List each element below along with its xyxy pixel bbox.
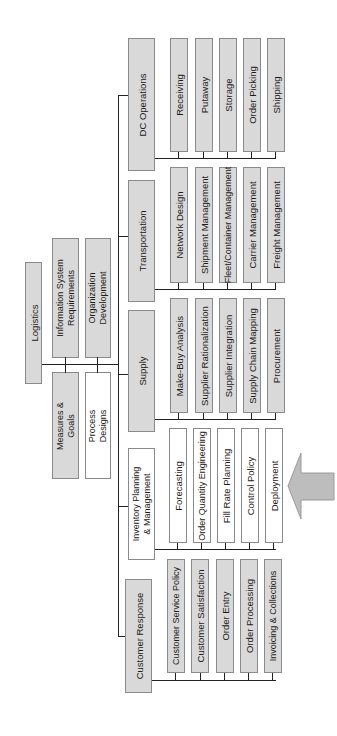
- stub: [175, 673, 176, 680]
- leaf-label: Receiving: [174, 74, 185, 116]
- leaf-fleet-container-management: Fleet/Container Management: [219, 167, 237, 283]
- process-designs-label: Process Designs: [87, 409, 109, 442]
- category-label: DC Operations: [136, 73, 147, 136]
- leaf-label: Freight Management: [271, 181, 282, 269]
- stub: [275, 283, 276, 289]
- leaf-order-entry: Order Entry: [216, 559, 234, 673]
- stub: [225, 543, 226, 549]
- leaf-label: Fleet/Container Management: [223, 167, 234, 284]
- stub: [203, 152, 204, 158]
- category-dc-operations: DC Operations: [128, 38, 155, 171]
- leaf-label: Make-Buy Analysis: [174, 315, 185, 395]
- stub: [178, 283, 179, 289]
- stub: [251, 283, 252, 289]
- leaf-label: Shipment Management: [199, 176, 210, 274]
- stub: [251, 413, 252, 419]
- stub: [275, 152, 276, 158]
- highlight-arrow-icon: [286, 451, 336, 521]
- leaf-control-policy: Control Policy: [241, 428, 259, 543]
- bus-supply: [155, 419, 276, 420]
- leaf-procurement: Procurement: [267, 298, 285, 413]
- stub: [224, 673, 225, 680]
- stub: [203, 413, 204, 419]
- leaf-fill-rate-planning: Fill Rate Planning: [217, 428, 235, 543]
- leaf-shipping: Shipping: [267, 38, 285, 152]
- main-spine: [118, 95, 119, 636]
- leaf-order-quantity-engineering: Order Quantity Engineering: [193, 428, 211, 543]
- leaf-deployment: Deployment: [265, 428, 283, 543]
- stub: [178, 413, 179, 419]
- leaf-forecasting: Forecasting: [169, 428, 187, 543]
- leaf-label: Order Quantity Engineering: [197, 431, 208, 541]
- leaf-label: Control Policy: [245, 456, 256, 515]
- leaf-label: Carrier Management: [247, 181, 258, 268]
- information-system-requirements-box: Information System Requirements: [52, 238, 79, 358]
- stub: [273, 543, 274, 549]
- leaf-freight-management: Freight Management: [267, 167, 285, 283]
- leaf-shipment-management: Shipment Management: [195, 167, 213, 283]
- leaf-network-design: Network Design: [170, 167, 188, 283]
- information-system-requirements-label: Information System Requirements: [55, 259, 77, 337]
- leaf-label: Customer Service Policy: [171, 567, 182, 665]
- stub: [178, 152, 179, 158]
- bus-dc: [155, 158, 276, 159]
- stub: [227, 283, 228, 289]
- leaf-order-processing: Order Processing: [240, 559, 258, 673]
- measures-goals-label: Measures & Goals: [55, 401, 77, 449]
- leaf-label: Procurement: [271, 328, 282, 382]
- leaf-label: Supplier Rationalization: [199, 306, 210, 406]
- leaf-storage: Storage: [219, 38, 237, 152]
- category-label: Supply: [136, 356, 147, 385]
- leaf-customer-satisfaction: Customer Satisfaction: [191, 559, 209, 673]
- support-connector-1: [65, 357, 66, 373]
- leaf-supplier-rationalization: Supplier Rationalization: [195, 298, 213, 413]
- leaf-label: Order Picking: [247, 66, 258, 124]
- leaf-supply-chain-mapping: Supply Chain Mapping: [243, 298, 261, 413]
- stub: [200, 673, 201, 680]
- leaf-make-buy-analysis: Make-Buy Analysis: [170, 298, 188, 413]
- bus-transportation: [155, 289, 276, 290]
- leaf-carrier-management: Carrier Management: [243, 167, 261, 283]
- leaf-label: Deployment: [269, 460, 280, 511]
- stub: [227, 152, 228, 158]
- stub: [248, 673, 249, 680]
- stub: [227, 413, 228, 419]
- leaf-label: Order Processing: [244, 579, 255, 653]
- category-inventory-planning: Inventory Planning & Management: [128, 448, 155, 560]
- category-label: Inventory Planning & Management: [131, 467, 153, 542]
- leaf-order-picking: Order Picking: [243, 38, 261, 152]
- logistics-label: Logistics: [28, 305, 39, 342]
- stub: [251, 152, 252, 158]
- leaf-receiving: Receiving: [170, 38, 188, 152]
- leaf-customer-service-policy: Customer Service Policy: [167, 559, 185, 673]
- stub: [275, 413, 276, 419]
- leaf-label: Supplier Integration: [223, 314, 234, 396]
- support-connector-2: [97, 357, 98, 373]
- leaf-label: Shipping: [271, 77, 282, 114]
- leaf-supplier-integration: Supplier Integration: [219, 298, 237, 413]
- leaf-label: Customer Satisfaction: [195, 570, 206, 663]
- stub: [203, 283, 204, 289]
- root-connector: [42, 364, 119, 365]
- leaf-label: Fill Rate Planning: [221, 448, 232, 522]
- category-label: Customer Response: [133, 593, 144, 680]
- organization-development-label: Organization Development: [87, 271, 109, 324]
- leaf-label: Forecasting: [173, 461, 184, 511]
- category-label: Transportation: [136, 211, 147, 272]
- leaf-label: Invoicing & Collections: [268, 571, 279, 662]
- measures-goals-box: Measures & Goals: [52, 372, 79, 479]
- bus-inventory: [155, 549, 276, 550]
- category-customer-response: Customer Response: [125, 579, 152, 693]
- leaf-putaway: Putaway: [195, 38, 213, 152]
- leaf-label: Putaway: [199, 77, 210, 113]
- leaf-label: Order Entry: [220, 591, 231, 640]
- logistics-root-box: Logistics: [25, 262, 42, 384]
- leaf-label: Network Design: [174, 191, 185, 258]
- stub: [177, 543, 178, 549]
- process-designs-box: Process Designs: [85, 372, 111, 479]
- leaf-label: Supply Chain Mapping: [247, 308, 258, 404]
- category-supply: Supply: [128, 310, 155, 432]
- bus-customer: [152, 680, 276, 681]
- stub: [272, 673, 273, 680]
- stub: [201, 543, 202, 549]
